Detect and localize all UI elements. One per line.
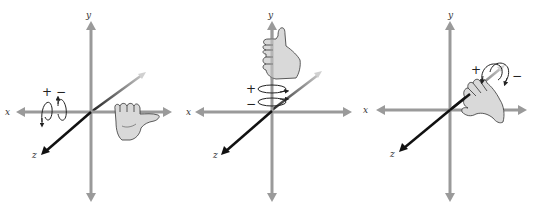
z-axis-label: z — [31, 150, 37, 160]
x-axis-arrowhead-left — [195, 107, 204, 117]
z-axis-label: z — [389, 149, 395, 159]
y-axis-arrowhead-bottom — [86, 193, 96, 202]
y-axis-arrowhead-top — [86, 21, 96, 30]
minus-label: − — [512, 69, 522, 83]
minus-label: − — [56, 85, 66, 99]
y-axis-arrowhead-bottom — [445, 193, 455, 202]
rotation-arrow-minus-icon — [58, 99, 66, 120]
x-axis-label: x — [363, 105, 368, 115]
x-axis-label: x — [5, 107, 10, 117]
plus-label: + — [42, 85, 52, 99]
right-hand-icon — [263, 28, 300, 79]
y-axis-label: y — [447, 10, 454, 20]
x-axis-arrowhead-right — [343, 107, 352, 117]
y-axis-arrowhead-top — [267, 21, 277, 30]
z-axis — [46, 112, 91, 151]
y-axis-arrowhead-bottom — [267, 193, 277, 202]
x-axis-arrowhead-right — [163, 107, 172, 117]
x-axis-arrowhead-right — [518, 105, 527, 115]
right-hand-rule-diagram: y x z + − y x z — [0, 0, 533, 204]
x-axis-arrowhead-left — [376, 105, 385, 115]
right-hand-icon — [462, 79, 504, 123]
z-axis-label: z — [212, 150, 218, 160]
plus-label: + — [246, 82, 256, 96]
plus-label: + — [471, 63, 481, 77]
right-hand-icon — [115, 103, 159, 140]
minus-label: − — [246, 97, 256, 111]
y-axis-label: y — [267, 10, 274, 20]
y-axis-arrowhead-top — [445, 21, 455, 30]
x-axis-arrowhead-left — [16, 107, 25, 117]
panel-z-rotation: y x z + − — [363, 10, 527, 202]
z-axis — [226, 111, 272, 151]
y-axis-label: y — [85, 10, 92, 20]
x-axis-label: x — [186, 107, 191, 117]
z-axis — [404, 110, 450, 148]
panel-x-rotation: y x z + − — [5, 10, 172, 202]
panel-y-rotation: y x z + − — [186, 10, 352, 202]
